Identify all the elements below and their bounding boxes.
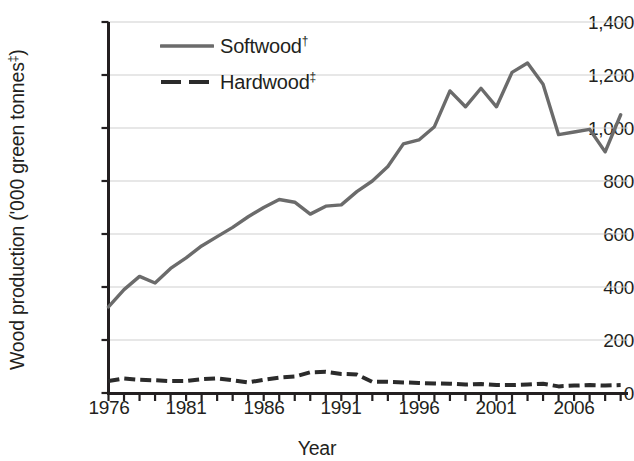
wood-production-line-chart: Wood production ('000 green tonnes‡) 1,4… <box>0 0 634 461</box>
legend-item-hardwood: Hardwood‡ <box>160 69 316 95</box>
series-line-softwood <box>109 63 621 307</box>
legend-label-hardwood: Hardwood‡ <box>220 70 316 94</box>
legend-label-softwood-text: Softwood <box>220 35 302 57</box>
x-axis-title: Year <box>0 437 634 460</box>
legend-swatch-hardwood-dashed-line <box>160 76 214 88</box>
legend-label-hardwood-superscript: ‡ <box>310 70 316 84</box>
legend-label-hardwood-text: Hardwood <box>220 71 310 93</box>
legend-swatch-softwood-solid-line <box>160 40 214 52</box>
legend-label-softwood: Softwood† <box>220 34 308 58</box>
legend-item-softwood: Softwood† <box>160 33 316 59</box>
series-line-hardwood <box>109 372 621 387</box>
plot-area <box>0 0 634 461</box>
legend-label-softwood-superscript: † <box>302 34 308 48</box>
chart-legend: Softwood† Hardwood‡ <box>160 33 316 95</box>
